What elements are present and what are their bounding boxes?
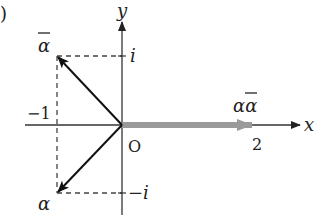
alpha-label: α — [38, 193, 50, 214]
tick-label-neg-i: −i — [128, 182, 149, 203]
alpha-bar-vector-arrow — [58, 57, 122, 125]
y-axis-label: y — [116, 0, 128, 21]
tick-label-i: i — [130, 45, 136, 66]
origin-label: O — [128, 137, 141, 156]
product-label: αα — [233, 95, 257, 116]
alpha-bar-label: α — [38, 35, 50, 56]
alpha-vector-arrow — [58, 125, 122, 192]
corner-paren: ) — [0, 3, 7, 24]
complex-plane-diagram: ) y x O −1 2 i −i α α αα — [0, 0, 317, 222]
tick-label-neg1: −1 — [27, 104, 51, 123]
tick-label-2: 2 — [252, 135, 262, 154]
x-axis-label: x — [304, 114, 314, 135]
